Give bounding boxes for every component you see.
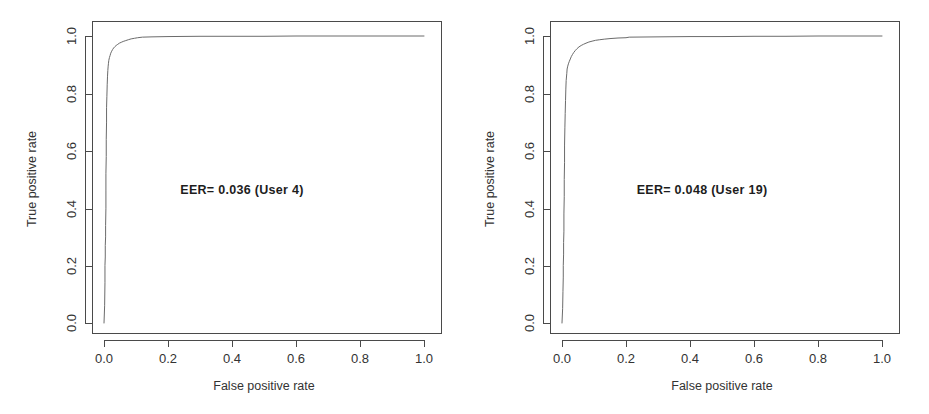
- x-tick-label: 0.8: [351, 351, 369, 366]
- y-tick-label: 0.2: [64, 257, 79, 275]
- x-axis-title: False positive rate: [671, 379, 772, 393]
- x-tick-label: 0.2: [159, 351, 177, 366]
- x-tick-label: 0.6: [287, 351, 305, 366]
- roc-curve-line: [562, 36, 882, 323]
- x-tick-label: 1.0: [415, 351, 433, 366]
- x-tick-label: 0.4: [681, 351, 699, 366]
- plot-frame-right: [551, 22, 900, 334]
- x-tick-label: 0.4: [223, 351, 241, 366]
- roc-panel-user-19: 1.0 0.8 0.6 0.4 0.2 0.0 0.0 0.2 0.4 0.6 …: [464, 0, 929, 414]
- x-tick-label: 0.0: [95, 351, 113, 366]
- y-tick-label: 0.8: [522, 85, 537, 103]
- y-tick-label: 0.2: [522, 257, 537, 275]
- y-axis-right: 1.0 0.8 0.6 0.4 0.2 0.0: [522, 27, 550, 332]
- y-tick-label: 0.0: [522, 314, 537, 332]
- y-tick-label: 1.0: [64, 27, 79, 45]
- y-axis-title: True positive rate: [483, 131, 497, 227]
- roc-panel-user-4: 1.0 0.8 0.6 0.4 0.2 0.0 0.0 0.2 0.4 0.6 …: [0, 0, 465, 414]
- roc-figure: 1.0 0.8 0.6 0.4 0.2 0.0 0.0 0.2 0.4 0.6 …: [0, 0, 929, 414]
- y-axis-left: 1.0 0.8 0.6 0.4 0.2 0.0: [64, 27, 92, 332]
- y-tick-label: 0.4: [522, 200, 537, 218]
- y-tick-label: 0.6: [64, 142, 79, 160]
- y-tick-label: 0.8: [64, 85, 79, 103]
- x-tick-label: 0.8: [809, 351, 827, 366]
- roc-curve-line: [104, 36, 424, 323]
- x-axis-right: 0.0 0.2 0.4 0.6 0.8 1.0: [553, 340, 891, 366]
- y-axis-title: True positive rate: [25, 131, 39, 227]
- eer-annotation: EER= 0.048 (User 19): [637, 183, 768, 197]
- x-tick-label: 0.6: [745, 351, 763, 366]
- x-tick-label: 0.0: [553, 351, 571, 366]
- roc-plot-right: 1.0 0.8 0.6 0.4 0.2 0.0 0.0 0.2 0.4 0.6 …: [464, 0, 929, 414]
- y-tick-label: 0.0: [64, 314, 79, 332]
- x-tick-label: 0.2: [617, 351, 635, 366]
- y-tick-label: 0.4: [64, 200, 79, 218]
- x-axis-title: False positive rate: [213, 379, 314, 393]
- roc-plot-left: 1.0 0.8 0.6 0.4 0.2 0.0 0.0 0.2 0.4 0.6 …: [0, 0, 465, 414]
- eer-annotation: EER= 0.036 (User 4): [180, 183, 303, 197]
- x-axis-left: 0.0 0.2 0.4 0.6 0.8 1.0: [95, 340, 433, 366]
- y-tick-label: 0.6: [522, 142, 537, 160]
- x-tick-label: 1.0: [873, 351, 891, 366]
- y-tick-label: 1.0: [522, 27, 537, 45]
- plot-frame-left: [93, 22, 442, 334]
